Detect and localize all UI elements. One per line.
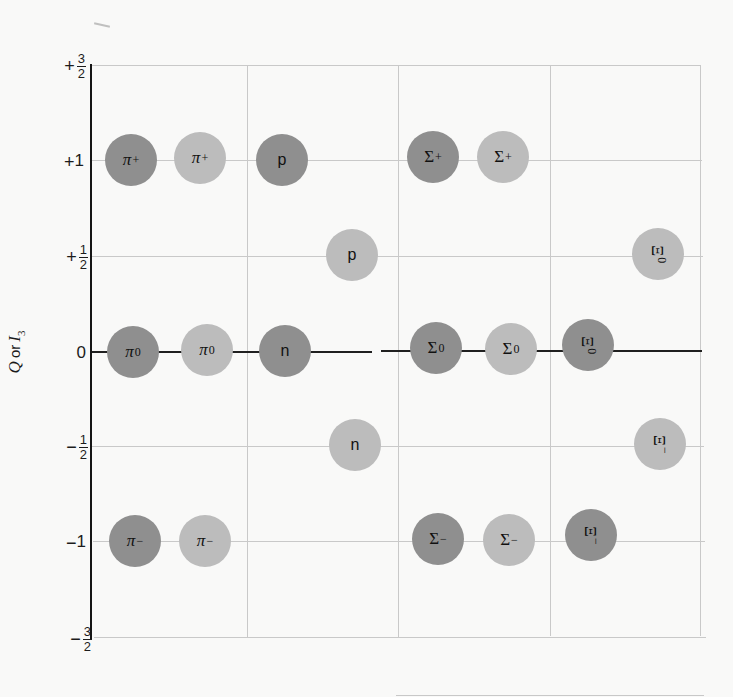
particle-pi-minus-dark: π− — [109, 515, 161, 567]
particle-xi-minus-light: Ξ− — [634, 418, 686, 470]
particle-proton-light: p — [326, 229, 378, 281]
particle-sigma-plus-light: Σ+ — [477, 131, 529, 183]
particle-sigma-zero-dark: Σ0 — [410, 322, 462, 374]
y-label-or: or — [6, 345, 23, 358]
particle-sigma-zero-light: Σ0 — [485, 323, 537, 375]
particle-neutron-dark: n — [259, 325, 311, 377]
particle-sigma-minus-light: Σ− — [483, 514, 535, 566]
particle-sigma-plus-dark: Σ+ — [407, 131, 459, 183]
particle-pi-plus-light: π+ — [174, 132, 226, 184]
ytick-plus-three-halves: +32 — [26, 52, 86, 80]
particle-pi-minus-light: π− — [179, 515, 231, 567]
y-label-q: Q — [5, 361, 24, 373]
y-label-sub: 3 — [15, 331, 27, 337]
particle-xi-zero-light: Ξ0 — [632, 228, 684, 280]
scan-mark — [94, 22, 110, 27]
page-rule — [396, 695, 704, 696]
y-label-i: I — [5, 336, 24, 342]
particle-pi-plus-dark: π+ — [105, 134, 157, 186]
ytick-minus-half: −12 — [28, 433, 88, 461]
grid-top-border — [91, 65, 700, 66]
ytick-minus-one: −1 — [26, 533, 86, 552]
ytick-plus-half: +12 — [28, 243, 88, 271]
ytick-plus-one: +1 — [24, 152, 84, 171]
ytick-zero: 0 — [26, 344, 86, 361]
particle-sigma-minus-dark: Σ− — [412, 513, 464, 565]
y-axis-label: QorI3 — [5, 331, 26, 374]
particle-xi-zero-dark: Ξ0 — [562, 319, 614, 371]
particle-pi-zero-dark: π0 — [107, 326, 159, 378]
particle-proton-dark: p — [256, 134, 308, 186]
gridline-plus-half — [91, 256, 703, 257]
particle-neutron-light: n — [329, 419, 381, 471]
particle-pi-zero-light: π0 — [181, 324, 233, 376]
ytick-minus-three-halves: −32 — [32, 625, 92, 653]
grid-bottom-border — [94, 637, 706, 638]
particle-xi-minus-dark: Ξ− — [565, 509, 617, 561]
